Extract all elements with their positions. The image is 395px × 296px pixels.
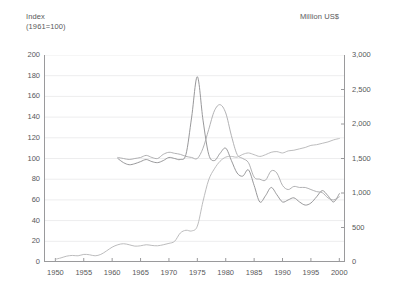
x-axis-ticks: 1950195519601965197019751980198519901995… — [0, 0, 395, 296]
x-tick-label: 2000 — [319, 269, 359, 277]
chart-container: Index (1961=100) Million US$ 02040608010… — [0, 0, 395, 296]
